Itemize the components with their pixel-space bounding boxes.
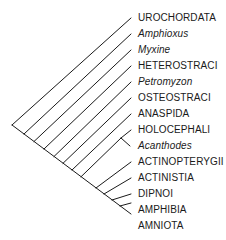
- branch-dipnoi: [112, 194, 131, 200]
- branch-anaspida: [72, 114, 131, 170]
- taxon-label-anaspida: ANASPIDA: [138, 108, 189, 120]
- branch-actinistia: [104, 178, 131, 194]
- branch-acanthodes: [121, 138, 130, 146]
- cladogram-tree: [0, 0, 226, 240]
- branch-amphibia: [120, 203, 131, 206]
- taxon-label-holocephali: HOLOCEPHALI: [138, 124, 210, 136]
- taxon-label-amniota: AMNIOTA: [138, 220, 184, 232]
- taxon-label-amphibia: AMPHIBIA: [138, 204, 187, 216]
- taxon-label-actinistia: ACTINISTIA: [138, 172, 194, 184]
- taxon-label-amphioxus: Amphioxus: [138, 28, 188, 40]
- spine-branch: [12, 125, 131, 214]
- taxon-label-dipnoi: DIPNOI: [138, 188, 173, 200]
- taxon-label-urochordata: UROCHORDATA: [138, 12, 216, 24]
- branch-actinopterygii: [96, 162, 131, 188]
- taxon-label-osteostraci: OSTEOSTRACI: [138, 92, 211, 104]
- branch-holocephali-acanthodes-stem: [81, 138, 121, 177]
- branch-petromyzon: [54, 82, 131, 157]
- branch-amphioxus: [24, 34, 131, 134]
- branch-osteostraci: [63, 98, 131, 163]
- branch-urochordata: [12, 18, 131, 125]
- taxon-label-myxine: Myxine: [138, 44, 170, 56]
- branch-heterostraci: [44, 66, 131, 149]
- branch-holocephali: [121, 130, 131, 138]
- taxon-label-petromyzon: Petromyzon: [138, 76, 192, 88]
- taxon-label-heterostraci: HETEROSTRACI: [138, 60, 218, 72]
- taxon-label-acanthodes: Acanthodes: [138, 140, 192, 152]
- taxon-label-actinopterygii: ACTINOPTERYGII: [138, 156, 224, 168]
